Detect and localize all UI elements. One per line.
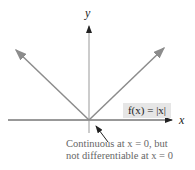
y-axis-label: y	[85, 6, 90, 21]
annotation-line-2: not differentiable at x = 0	[66, 150, 173, 162]
annotation-text: Continuous at x = 0, but not differentia…	[66, 138, 173, 162]
curve-left-branch	[16, 50, 89, 120]
x-axis-label: x	[179, 113, 184, 128]
function-label: f(x) = |x|	[123, 103, 171, 118]
annotation-line-1: Continuous at x = 0, but	[66, 138, 173, 150]
